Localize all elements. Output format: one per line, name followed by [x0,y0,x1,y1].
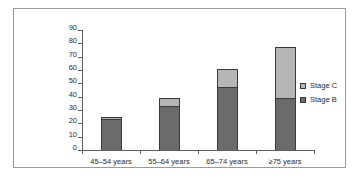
y-tick-mark [78,70,82,71]
x-tick-mark [198,150,199,154]
legend-swatch-icon [300,97,306,103]
y-tick-label: 30 [69,104,77,112]
y-tick-label: 70 [69,51,77,59]
x-tick-mark [314,150,315,154]
y-tick-label: 90 [69,24,77,32]
y-axis-line [82,30,83,151]
figure-frame: 0102030405060708090 45–54 years55–64 yea… [13,8,346,168]
y-tick-mark [78,30,82,31]
y-tick-label: 40 [69,91,77,99]
y-tick-mark [78,110,82,111]
bar-segment-stage-c[interactable] [275,47,296,98]
x-tick-mark [82,150,83,154]
x-tick-mark [140,150,141,154]
plot-area: 0102030405060708090 45–54 years55–64 yea… [82,30,314,150]
bar-segment-stage-b[interactable] [275,98,296,150]
x-axis-label: ≥75 years [256,158,314,166]
y-tick-label: 0 [73,144,77,152]
y-tick-label: 50 [69,77,77,85]
stacked-bar[interactable] [217,69,238,150]
y-tick-mark [78,137,82,138]
legend-swatch-icon [300,83,306,89]
bar-segment-stage-b[interactable] [101,119,122,150]
bar-segment-stage-b[interactable] [217,87,238,150]
y-tick-mark [78,57,82,58]
x-axis-label: 45–54 years [82,158,140,166]
chart-legend: Stage CStage B [300,80,337,108]
legend-item[interactable]: Stage C [300,80,337,91]
legend-label: Stage C [310,82,337,90]
bar-segment-stage-b[interactable] [159,106,180,150]
y-tick-label: 10 [69,131,77,139]
y-tick-mark [78,43,82,44]
stacked-bar[interactable] [159,98,180,150]
chart-figure: 0102030405060708090 45–54 years55–64 yea… [0,0,360,178]
y-tick-label: 80 [69,37,77,45]
legend-label: Stage B [310,96,337,104]
stacked-bar[interactable] [101,117,122,150]
y-tick-mark [78,123,82,124]
x-tick-mark [256,150,257,154]
stacked-bar[interactable] [275,47,296,150]
bar-segment-stage-c[interactable] [217,69,238,88]
bar-segment-stage-c[interactable] [159,98,180,106]
y-tick-mark [78,83,82,84]
y-tick-label: 60 [69,64,77,72]
y-tick-label: 20 [69,117,77,125]
x-axis-label: 55–64 years [140,158,198,166]
x-axis-label: 65–74 years [198,158,256,166]
legend-item[interactable]: Stage B [300,94,337,105]
y-tick-mark [78,97,82,98]
